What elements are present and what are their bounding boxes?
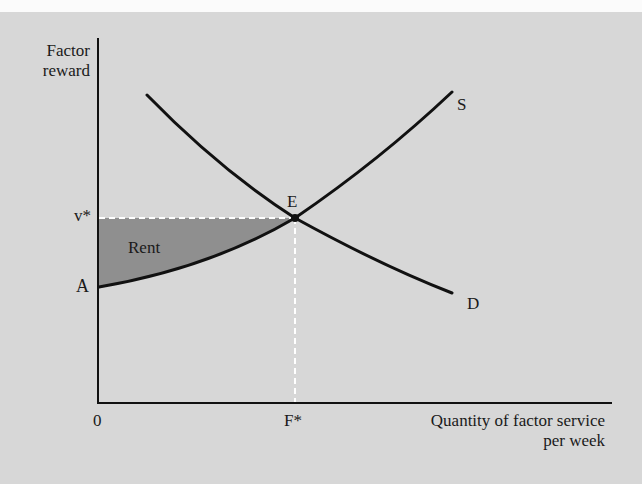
demand-curve-label: D bbox=[467, 294, 479, 314]
equilibrium-label: E bbox=[287, 192, 297, 212]
y-axis-label-line2: reward bbox=[20, 61, 90, 81]
origin-label: 0 bbox=[93, 411, 102, 431]
y-axis-label-line1: Factor bbox=[20, 41, 90, 61]
v-star-label: v* bbox=[74, 206, 91, 226]
f-star-label: F* bbox=[284, 411, 302, 431]
x-axis-label-line1: Quantity of factor service bbox=[340, 411, 605, 431]
equilibrium-point bbox=[291, 214, 299, 222]
rent-label: Rent bbox=[128, 238, 160, 258]
x-axis-label: Quantity of factor service per week bbox=[340, 411, 605, 451]
y-axis-label: Factor reward bbox=[20, 41, 90, 81]
a-intercept-label: A bbox=[76, 276, 89, 296]
x-axis-label-line2: per week bbox=[340, 431, 605, 451]
supply-curve-label: S bbox=[457, 95, 466, 115]
